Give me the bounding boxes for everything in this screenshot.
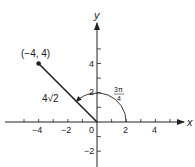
point-marker — [36, 61, 41, 66]
x-tick-label-4: 4 — [152, 125, 157, 135]
y-ticks — [97, 49, 101, 151]
point-label: (−4, 4) — [21, 48, 50, 59]
x-tick-label-neg4: −4 — [32, 125, 42, 135]
y-axis-label: y — [93, 9, 101, 21]
segment-length-label: 4√2 — [42, 93, 59, 104]
y-tick-label-4: 4 — [89, 59, 94, 69]
angle-label-numerator: 3π — [114, 86, 123, 93]
y-tick-label-2: 2 — [89, 87, 94, 97]
x-tick-label-0: 0 — [89, 125, 94, 135]
x-axis-label: x — [186, 116, 193, 128]
x-tick-label-2: 2 — [123, 125, 128, 135]
polar-diagram: y x −4 −2 0 2 4 4 2 −2 (−4, 4) 4√2 3π 4 — [0, 0, 195, 167]
y-tick-label-neg2: −2 — [84, 146, 94, 156]
angle-label-denominator: 4 — [117, 95, 121, 102]
x-tick-label-neg2: −2 — [61, 125, 71, 135]
